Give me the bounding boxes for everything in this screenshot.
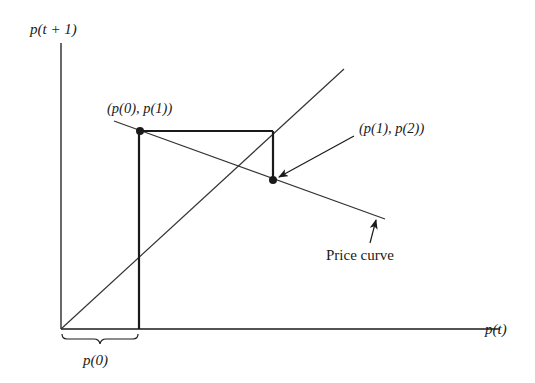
point-p1-p2	[269, 176, 277, 184]
x-axis-label: p(t)	[484, 321, 507, 338]
point-p0-p1	[136, 127, 144, 135]
arrow-to-point-p1-p2	[279, 136, 354, 177]
p0-brace-label: p(0)	[82, 352, 108, 369]
cobweb-diagram: p(t + 1) p(t) (p(0), p(1)) (p(1), p(2)) …	[0, 0, 535, 383]
price-curve-label: Price curve	[326, 247, 394, 263]
arrow-to-price-curve	[370, 220, 376, 243]
price-curve	[114, 121, 385, 219]
diagonal-line	[61, 69, 344, 329]
p0-brace	[62, 334, 138, 344]
y-axis-label: p(t + 1)	[29, 21, 77, 38]
point-p0-p1-label: (p(0), p(1))	[107, 100, 172, 117]
point-p1-p2-label: (p(1), p(2))	[359, 120, 424, 137]
